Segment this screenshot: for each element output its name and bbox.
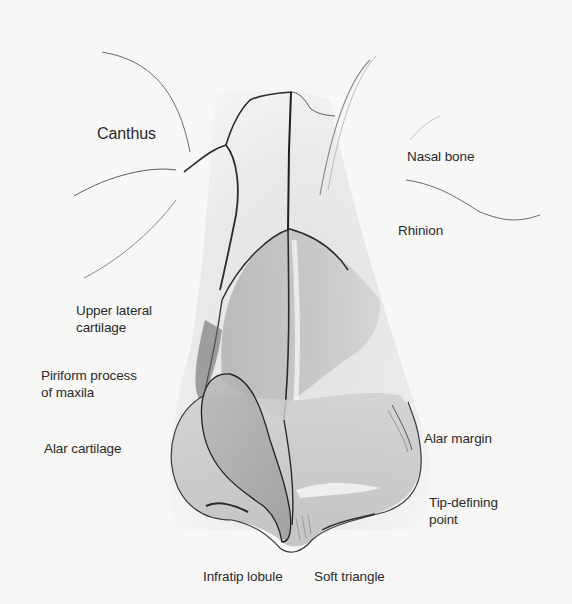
label-nasal-bone: Nasal bone [407,148,474,165]
label-upper-lateral-cartilage: Upper lateral cartilage [76,302,152,336]
nose-anatomy-figure: Canthus Nasal bone Rhinion Upper lateral… [0,0,572,604]
label-infratip-lobule: Infratip lobule [203,568,283,585]
label-piriform-process: Piriform process of maxila [41,367,137,401]
label-soft-triangle: Soft triangle [314,568,385,585]
canthus-lower-curve [74,169,176,196]
nasal-bone-faint [410,116,440,140]
label-alar-margin: Alar margin [424,430,492,447]
nasal-bone-curve [406,180,540,220]
label-piriform-process-line1: Piriform process [41,367,137,384]
label-upper-lateral-cartilage-line1: Upper lateral [76,302,152,319]
label-tip-defining-point: Tip-defining point [429,494,498,528]
label-piriform-process-line2: of maxila [41,384,137,401]
label-canthus: Canthus [97,124,156,143]
cheek-left-curve [84,200,176,278]
label-upper-lateral-cartilage-line2: cartilage [76,319,152,336]
label-tip-defining-point-line1: Tip-defining [429,494,498,511]
label-rhinion: Rhinion [398,222,443,239]
label-alar-cartilage: Alar cartilage [44,440,121,457]
label-tip-defining-point-line2: point [429,511,498,528]
